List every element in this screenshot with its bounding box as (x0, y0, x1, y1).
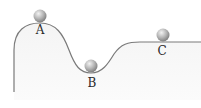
ball-a-icon (34, 10, 47, 23)
label-b: B (88, 77, 97, 89)
track-figure (0, 0, 201, 108)
ball-c-icon (157, 29, 170, 42)
equilibrium-diagram: A B C (0, 0, 201, 108)
label-c: C (157, 45, 166, 57)
label-a: A (36, 24, 45, 36)
ball-b-icon (85, 60, 98, 73)
